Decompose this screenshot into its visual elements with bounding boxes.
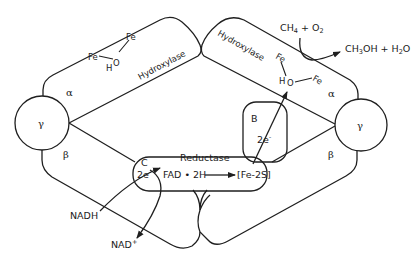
component-b-electrons: 2e- <box>257 133 271 145</box>
right-hydroxylase-label: Hydroxylase <box>216 28 266 63</box>
component-b-label: B <box>251 113 258 124</box>
left-alpha-label: α <box>66 87 73 98</box>
fe2s-label: [Fe-2S] <box>237 169 271 180</box>
electron-transfer-arrow <box>253 92 287 164</box>
mmo-diagram: γ α β Hydroxylase Fe Fe O H γ α β Hydrox… <box>0 0 413 265</box>
right-beta-top-edge <box>272 126 335 162</box>
left-fe1: Fe <box>88 52 98 62</box>
substrate-label: CH4 + O2 <box>280 22 324 35</box>
left-o: O <box>113 58 120 68</box>
right-gamma-label: γ <box>357 120 363 131</box>
reductase-electrons: 2e- <box>137 168 151 180</box>
right-h: H <box>279 76 285 86</box>
left-beta-top-edge <box>69 123 135 162</box>
left-alpha-subunit <box>43 17 201 123</box>
nad-label: NAD+ <box>111 238 137 250</box>
left-fe2: Fe <box>126 32 136 42</box>
fad-label: FAD • 2H <box>163 169 206 180</box>
right-beta-label: β <box>328 149 334 160</box>
domain-c-label: C <box>141 157 148 168</box>
left-gamma-label: γ <box>38 118 44 129</box>
right-fe2: Fe <box>311 73 324 86</box>
right-fe1: Fe <box>274 51 287 64</box>
right-beta-subunit <box>198 151 357 244</box>
reaction-arrow <box>300 38 340 60</box>
right-o: O <box>287 78 294 88</box>
nadh-label: NADH <box>70 210 98 221</box>
right-alpha-label: α <box>328 88 335 99</box>
product-label: CH3OH + H2O <box>345 43 410 56</box>
left-beta-subunit <box>42 150 200 248</box>
reductase-title: Reductase <box>180 152 230 163</box>
component-b-box <box>243 102 287 162</box>
right-active-site-bonds <box>281 62 312 82</box>
left-h: H <box>106 63 112 73</box>
left-beta-label: β <box>63 149 69 160</box>
